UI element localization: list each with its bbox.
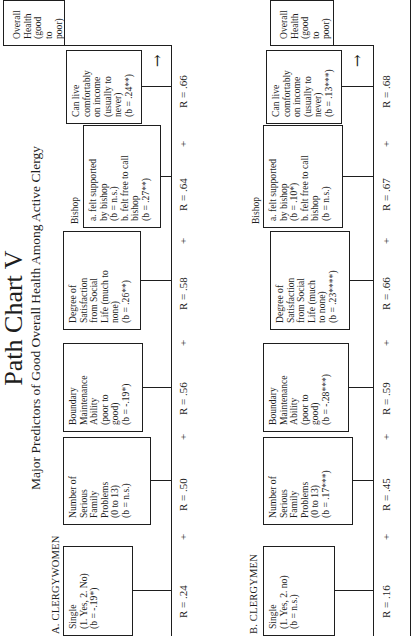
connector: [143, 387, 171, 388]
section-a-baseline: [171, 45, 172, 636]
section-a-arrow-icon: →: [150, 54, 165, 67]
section-b-r-value: R = .45: [380, 478, 392, 511]
section-a-predictor-family-problems: Number of Serious Family Problems (0 to …: [63, 437, 151, 525]
section-a-r-value: R = .64: [177, 178, 189, 211]
section-b-predictor-bishop: a. felt supported by bishop (b = .10*) b…: [263, 125, 343, 228]
connector: [334, 45, 374, 46]
plus-sign: +: [380, 434, 392, 440]
connector: [151, 480, 171, 481]
section-a-r-value: R = .66: [177, 75, 189, 108]
connector: [350, 280, 373, 281]
section-b-r-value: R = .16: [380, 585, 392, 618]
section-a-predictor-income: Can live comfortably on income (usually …: [66, 50, 142, 124]
connector: [349, 387, 373, 388]
section-b-bishop-label: Bishop: [251, 197, 261, 224]
path-chart-page: Path Chart V Major Predictors of Good Ov…: [0, 0, 416, 636]
section-b-predictor-income: Can live comfortably on income (usually …: [266, 50, 342, 124]
page-bottom-rule: [410, 0, 411, 636]
connector: [65, 45, 172, 46]
page-subtitle: Major Predictors of Good Overall Health …: [28, 0, 44, 636]
plus-sign: +: [177, 534, 189, 540]
plus-sign: +: [177, 434, 189, 440]
section-a-r-value: R = .24: [177, 585, 189, 618]
section-b-label: B. CLERGYMEN: [248, 554, 259, 634]
section-b-predictor-boundary: Boundary Maintenance Ability (poor to go…: [263, 343, 349, 432]
plus-sign: +: [177, 141, 189, 147]
section-b-r-value: R = .67: [380, 178, 392, 211]
connector: [335, 590, 373, 591]
section-b-predictor-social-life: Degree of Satisfaction from Social Life …: [270, 231, 350, 330]
section-a-r-value: R = .56: [177, 382, 189, 415]
section-b-r-value: R = .68: [380, 75, 392, 108]
plus-sign: +: [177, 340, 189, 346]
section-a-label: A. CLERGYWOMEN: [50, 536, 61, 634]
section-a-r-value: R = .50: [177, 478, 189, 511]
connector: [142, 86, 171, 87]
section-b-predictor-single: Single (1. Yes, 2. no) (b = n.s.): [263, 546, 335, 636]
section-b-outcome-health: Overall Health (good to poor): [270, 0, 334, 46]
section-a-predictor-bishop: a. felt supported by bishop (b = n.s.) b…: [83, 125, 161, 228]
section-a-bishop-label: Bishop: [70, 197, 80, 224]
section-a-r-value: R = .58: [177, 277, 189, 310]
section-a-predictor-boundary: Boundary Maintenance Ability (poor to go…: [63, 343, 143, 432]
plus-sign: +: [380, 238, 392, 244]
section-a-outcome-health: Overall Health (good to poor): [3, 0, 65, 46]
connector: [343, 176, 373, 177]
section-b-arrow-icon: →: [350, 54, 365, 67]
plus-sign: +: [177, 238, 189, 244]
section-b-predictor-family-problems: Number of Serious Family Problems (0 to …: [263, 437, 353, 525]
page-title: Path Chart V: [0, 0, 28, 636]
connector: [342, 86, 373, 87]
connector: [133, 590, 171, 591]
section-a-predictor-social-life: Degree of Satisfaction from Social Life …: [63, 231, 141, 330]
section-b-baseline: [373, 45, 374, 636]
section-a-predictor-single: Single (1. Yes, 2. No) (b = -.19*): [63, 546, 133, 636]
connector: [161, 176, 171, 177]
plus-sign: +: [380, 141, 392, 147]
section-b-r-value: R = .66: [380, 277, 392, 310]
plus-sign: +: [380, 340, 392, 346]
plus-sign: +: [380, 534, 392, 540]
connector: [141, 280, 171, 281]
section-b-r-value: R = .59: [380, 382, 392, 415]
connector: [353, 480, 373, 481]
